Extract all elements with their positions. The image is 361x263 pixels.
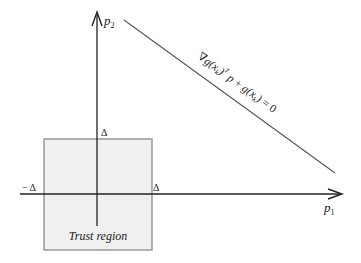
- p2-label: p2: [103, 13, 115, 30]
- constraint-equation: ∇g(xk)T p + g(xk) = 0: [195, 49, 280, 116]
- delta-top-label: Δ: [101, 127, 108, 138]
- trust-region-label: Trust region: [69, 229, 128, 243]
- p1-label: p1: [323, 200, 335, 217]
- neg-delta-left-label: − Δ: [22, 182, 37, 193]
- trust-region-diagram: p2 p1 Δ Δ − Δ Trust region ∇g(xk)T p + g…: [0, 0, 361, 263]
- linearized-constraint-line: [124, 20, 335, 173]
- svg-text:∇g(xk)T p + g(xk) = 0: ∇g(xk)T p + g(xk) = 0: [195, 49, 280, 116]
- delta-right-label: Δ: [153, 182, 160, 193]
